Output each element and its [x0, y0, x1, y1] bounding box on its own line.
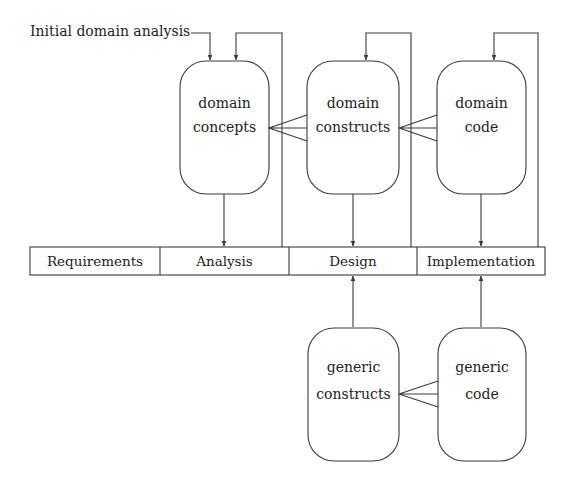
crowsfoot-constructs-code: [399, 115, 437, 141]
phase-design: Design: [329, 253, 377, 269]
crowsfoot-concepts-constructs: [269, 115, 307, 141]
input-arrow: [191, 33, 210, 60]
crowsfoot-generic-constructs-code: [399, 381, 438, 407]
domain-concepts-line1: domain: [198, 95, 251, 111]
generic-code-box: generic code: [438, 328, 526, 461]
generic-constructs-line1: generic: [327, 359, 381, 375]
input-label: Initial domain analysis: [30, 23, 190, 39]
phase-requirements: Requirements: [47, 253, 143, 269]
generic-code-line1: generic: [455, 359, 509, 375]
phase-analysis: Analysis: [195, 253, 253, 269]
phase-bar: Requirements Analysis Design Implementat…: [30, 247, 545, 275]
phase-implementation: Implementation: [427, 253, 536, 269]
domain-concepts-box: domain concepts: [180, 61, 269, 194]
generic-constructs-box: generic constructs: [308, 328, 399, 461]
generic-code-line2: code: [465, 386, 499, 402]
domain-concepts-line2: concepts: [193, 119, 256, 135]
domain-code-line1: domain: [455, 95, 508, 111]
domain-constructs-line1: domain: [327, 95, 380, 111]
domain-constructs-line2: constructs: [316, 119, 390, 135]
process-diagram: Initial domain analysis domain concepts …: [0, 0, 572, 491]
domain-code-box: domain code: [437, 61, 526, 194]
domain-constructs-box: domain constructs: [307, 61, 399, 194]
domain-code-line2: code: [465, 119, 499, 135]
generic-constructs-line2: constructs: [316, 386, 390, 402]
